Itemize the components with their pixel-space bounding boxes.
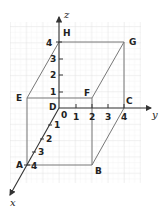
vertex-label-H: H [63, 28, 71, 38]
y-tick-4: 4 [121, 112, 127, 122]
y-tick-2: 2 [89, 112, 95, 122]
z-tick-3: 3 [50, 54, 56, 64]
x-tick-2: 2 [46, 134, 52, 144]
vertex-label-G: G [129, 37, 136, 47]
vertex-label-F: F [84, 88, 90, 98]
vertex-label-A: A [16, 160, 23, 170]
z-axis-label: z [63, 9, 70, 20]
x-axis-label: x [10, 197, 16, 208]
z-tick-4: 4 [46, 38, 52, 48]
z-tick-2: 2 [50, 70, 56, 80]
y-tick-1: 1 [73, 112, 79, 122]
x-tick-3: 3 [38, 147, 44, 157]
x-tick-1: 1 [54, 120, 60, 130]
vertex-label-E: E [16, 93, 22, 103]
origin-label: 0 [61, 110, 67, 120]
x-tick-4: 4 [31, 161, 37, 171]
y-tick-3: 3 [105, 112, 111, 122]
z-tick-1: 1 [50, 87, 56, 97]
y-axis-label: y [151, 109, 158, 120]
cuboid-diagram: 1 2 3 4 0 1 2 3 4 1 2 3 4 z y x H G E F … [0, 0, 165, 215]
vertex-label-D: D [49, 102, 56, 112]
vertex-label-C: C [126, 96, 133, 106]
vertex-label-B: B [95, 166, 102, 176]
